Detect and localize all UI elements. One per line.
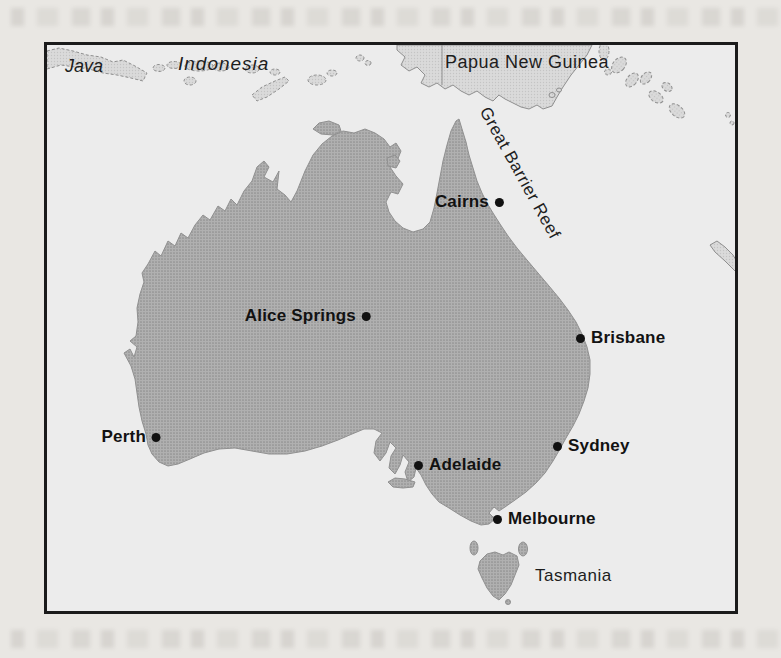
label-tasmania: Tasmania [535,567,612,584]
city-label-brisbane: Brisbane [591,328,665,348]
new-caledonia-island [710,241,735,273]
solomon-islands-chain [599,45,734,125]
city-marker-alice-springs: Alice Springs [245,306,371,326]
scanned-book-page: Java Indonesia Papua New Guinea Great Ba… [0,0,781,658]
city-marker-cairns: Cairns [435,192,504,212]
city-dot-cairns [495,198,504,207]
city-dot-sydney [553,442,562,451]
australia-map: Java Indonesia Papua New Guinea Great Ba… [44,42,738,614]
city-marker-perth: Perth [102,427,161,447]
city-dot-alice-springs [362,312,371,321]
city-marker-melbourne: Melbourne [493,509,596,529]
city-dot-adelaide [414,461,423,470]
melville-island [313,121,341,135]
city-label-sydney: Sydney [568,436,630,456]
city-marker-sydney: Sydney [553,436,630,456]
city-label-cairns: Cairns [435,192,489,212]
city-label-adelaide: Adelaide [429,455,501,475]
city-dot-melbourne [493,515,502,524]
tasmania-island [478,552,519,600]
label-java: Java [65,57,103,75]
city-dot-perth [152,433,161,442]
tasmania-islet [506,600,511,605]
page-bleedthrough-top [0,8,781,26]
city-label-alice-springs: Alice Springs [245,306,356,326]
city-dot-brisbane [576,334,585,343]
city-marker-adelaide: Adelaide [414,455,501,475]
label-papua-new-guinea: Papua New Guinea [445,53,609,71]
city-label-perth: Perth [102,427,146,447]
page-bleedthrough-bottom [0,630,781,648]
city-label-melbourne: Melbourne [508,509,596,529]
city-marker-brisbane: Brisbane [576,328,665,348]
label-indonesia: Indonesia [178,54,269,73]
